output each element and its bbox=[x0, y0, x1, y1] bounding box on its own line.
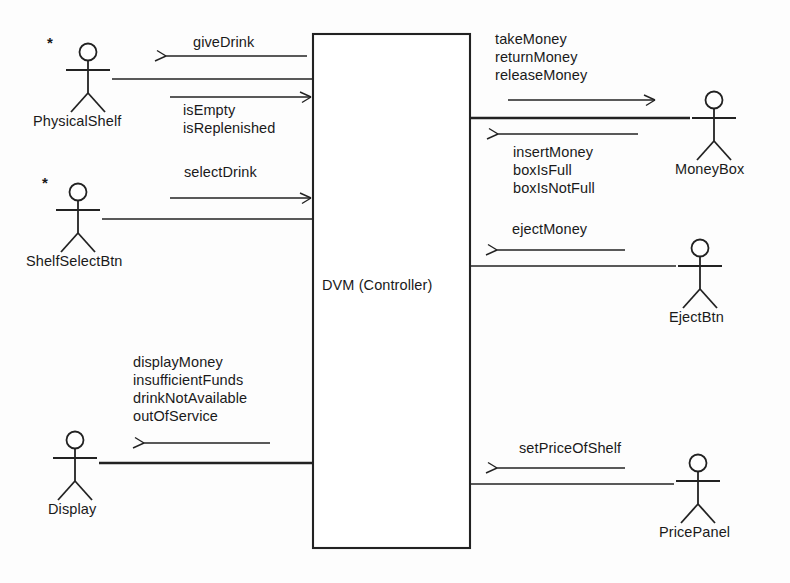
message-label-is-empty-is-replenished: isEmpty isReplenished bbox=[183, 101, 275, 137]
actor-price-panel[interactable] bbox=[676, 455, 720, 524]
multiplicity-physical-shelf: * bbox=[47, 38, 53, 48]
actor-eject-btn[interactable] bbox=[678, 240, 722, 309]
message-label-select-drink: selectDrink bbox=[184, 163, 257, 181]
message-label-take-return-release-money: takeMoney returnMoney releaseMoney bbox=[495, 30, 587, 84]
actor-display[interactable] bbox=[53, 432, 97, 501]
actor-label-shelf-select-btn: ShelfSelectBtn bbox=[26, 253, 123, 270]
actor-label-physical-shelf: PhysicalShelf bbox=[33, 113, 121, 130]
actor-label-display: Display bbox=[48, 501, 96, 518]
actor-physical-shelf[interactable] bbox=[66, 44, 110, 113]
actor-label-money-box: MoneyBox bbox=[675, 161, 744, 178]
message-label-eject-money: ejectMoney bbox=[512, 220, 587, 238]
actor-label-eject-btn: EjectBtn bbox=[669, 309, 724, 326]
actor-money-box[interactable] bbox=[692, 92, 736, 161]
message-label-display-messages: displayMoney insufficientFunds drinkNotA… bbox=[133, 353, 247, 425]
actor-shelf-select-btn[interactable] bbox=[56, 184, 100, 253]
system-box-label: DVM (Controller) bbox=[322, 277, 432, 294]
message-label-give-drink: giveDrink bbox=[193, 33, 254, 51]
message-label-insert-money-box-full: insertMoney boxIsFull boxIsNotFull bbox=[513, 143, 595, 197]
message-label-set-price-of-shelf: setPriceOfShelf bbox=[519, 439, 621, 457]
multiplicity-shelf-select-btn: * bbox=[42, 178, 48, 188]
actor-label-price-panel: PricePanel bbox=[659, 524, 730, 541]
diagram-canvas: DVM (Controller) * * PhysicalShelf Shelf… bbox=[0, 0, 790, 583]
